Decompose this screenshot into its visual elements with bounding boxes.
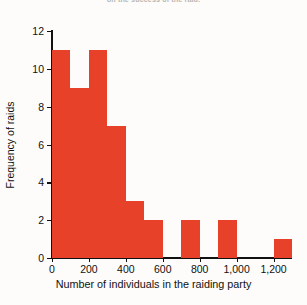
histogram-bar bbox=[52, 50, 70, 258]
y-axis-label: Frequency of raids bbox=[4, 102, 16, 189]
histogram-bar bbox=[89, 50, 107, 258]
x-axis-tick bbox=[163, 258, 164, 262]
x-axis-tick bbox=[89, 258, 90, 262]
y-axis-tick-label: 8 bbox=[38, 101, 44, 112]
x-axis-tick-label: 1,000 bbox=[223, 264, 249, 275]
x-axis-tick bbox=[126, 258, 127, 262]
histogram-bar bbox=[107, 126, 125, 258]
y-axis-tick bbox=[47, 182, 53, 183]
x-axis-tick-label: 400 bbox=[117, 264, 135, 275]
x-axis-tick bbox=[237, 258, 238, 262]
y-axis-tick-label: 10 bbox=[32, 64, 44, 75]
y-axis-tick-label: 2 bbox=[38, 215, 44, 226]
x-axis-label: Number of individuals in the raiding par… bbox=[0, 278, 307, 290]
figure-caption-clipped: on the success of the raid. bbox=[0, 0, 307, 6]
plot-area: 024681012 02004006008001,0001,200 bbox=[52, 31, 292, 258]
x-axis-tick bbox=[52, 258, 53, 262]
y-axis-tick bbox=[47, 220, 53, 221]
x-axis-tick-label: 600 bbox=[154, 264, 172, 275]
histogram-bar bbox=[218, 220, 236, 258]
x-axis-tick bbox=[200, 258, 201, 262]
y-axis-tick-label: 4 bbox=[38, 177, 44, 188]
y-axis-tick bbox=[47, 69, 53, 70]
figure-caption-text: on the success of the raid. bbox=[0, 0, 307, 6]
y-axis-tick-label: 6 bbox=[38, 139, 44, 150]
x-axis-tick-label: 200 bbox=[80, 264, 98, 275]
x-axis-tick-label: 0 bbox=[49, 264, 55, 275]
histogram-figure: on the success of the raid. 024681012 02… bbox=[0, 0, 307, 305]
histogram-bar bbox=[126, 201, 144, 258]
histogram-bar bbox=[181, 220, 199, 258]
histogram-bar bbox=[274, 239, 292, 258]
x-axis-tick bbox=[274, 258, 275, 262]
histogram-bar bbox=[144, 220, 162, 258]
y-axis-tick-label: 12 bbox=[32, 26, 44, 37]
histogram-bar bbox=[70, 88, 88, 258]
x-axis-tick-label: 1,200 bbox=[260, 264, 286, 275]
y-axis-tick-label: 0 bbox=[38, 253, 44, 264]
y-axis-tick bbox=[47, 107, 53, 108]
x-axis-tick-label: 800 bbox=[191, 264, 209, 275]
y-axis-tick bbox=[47, 31, 53, 32]
y-axis-tick bbox=[47, 145, 53, 146]
